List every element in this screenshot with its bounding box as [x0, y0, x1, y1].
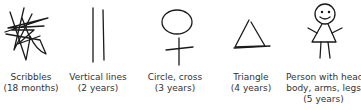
caption-scribbles: Scribbles (18 months): [0, 72, 62, 94]
caption-vertical-lines: Vertical lines (2 years): [66, 72, 130, 94]
triangle-drawing-icon: [220, 0, 282, 70]
figure-scribbles: Scribbles (18 months): [0, 0, 62, 110]
figure-age: (2 years): [66, 83, 130, 94]
figure-triangle: Triangle (4 years): [220, 0, 282, 110]
figure-age: (3 years): [140, 83, 210, 94]
scribbles-drawing-icon: [0, 0, 62, 70]
figure-age: (4 years): [220, 83, 282, 94]
figure-label: Triangle: [220, 72, 282, 83]
figure-age: (5 years): [286, 94, 361, 105]
figure-age: (18 months): [0, 83, 62, 94]
figure-circle-cross: Circle, cross (3 years): [140, 0, 210, 110]
figure-label: Circle, cross: [140, 72, 210, 83]
caption-person: Person with head, body, arms, legs (5 ye…: [286, 72, 361, 105]
figure-label: Person with head,: [286, 72, 361, 83]
figure-person: Person with head, body, arms, legs (5 ye…: [286, 0, 361, 110]
figure-label: Scribbles: [0, 72, 62, 83]
circle-cross-drawing-icon: [140, 0, 210, 70]
figure-vertical-lines: Vertical lines (2 years): [66, 0, 130, 110]
stick-person-drawing-icon: [286, 0, 361, 70]
figure-label: Vertical lines: [66, 72, 130, 83]
caption-triangle: Triangle (4 years): [220, 72, 282, 94]
drawing-development-diagram: Scribbles (18 months) Vertical lines (2 …: [0, 0, 361, 110]
figure-label-line2: body, arms, legs: [286, 83, 361, 94]
caption-circle-cross: Circle, cross (3 years): [140, 72, 210, 94]
vertical-lines-drawing-icon: [66, 0, 130, 70]
